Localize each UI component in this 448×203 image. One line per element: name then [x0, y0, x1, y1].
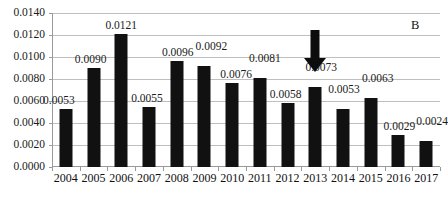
x-axis-tick-label: 2016 [385, 172, 413, 184]
bar-value-label: 0.0121 [105, 20, 137, 32]
x-axis-tick [135, 167, 136, 171]
bar-slot [80, 13, 108, 167]
bar[interactable] [420, 141, 433, 167]
x-axis-tick [329, 167, 330, 171]
plot-area: 0.00530.00900.01210.00550.00960.00920.00… [52, 13, 440, 167]
bar[interactable] [198, 66, 211, 167]
bar[interactable] [253, 78, 266, 167]
x-axis-tick [218, 167, 219, 171]
x-axis-tick-label: 2013 [301, 172, 329, 184]
x-axis-tick-label: 2009 [191, 172, 219, 184]
x-axis-tick-label: 2011 [246, 172, 274, 184]
bar-slot [163, 13, 191, 167]
bar[interactable] [226, 83, 239, 167]
x-axis-tick [191, 167, 192, 171]
x-axis-tick [52, 167, 53, 171]
x-axis-tick [107, 167, 108, 171]
x-axis-tick-label: 2014 [329, 172, 357, 184]
x-axis-tick-label: 2004 [52, 172, 80, 184]
bar-value-label: 0.0090 [75, 54, 107, 66]
y-axis-tick-label: 0.0100 [0, 51, 45, 63]
bar[interactable] [281, 103, 294, 167]
bar[interactable] [115, 34, 128, 167]
bar[interactable] [309, 87, 322, 167]
bar[interactable] [336, 109, 349, 167]
bar-value-label: 0.0053 [328, 84, 360, 96]
y-axis-tick-label: 0.0020 [0, 139, 45, 151]
bar[interactable] [142, 107, 155, 168]
bar-value-label: 0.0058 [270, 89, 302, 101]
bar-value-label: 0.0024 [416, 116, 448, 128]
bar[interactable] [59, 109, 72, 167]
x-axis-tick [80, 167, 81, 171]
y-axis-tick-label: 0.0040 [0, 117, 45, 129]
bar[interactable] [87, 68, 100, 167]
x-axis-tick [274, 167, 275, 171]
x-axis-tick-label: 2008 [163, 172, 191, 184]
arrow-shaft [311, 30, 320, 58]
bar[interactable] [364, 98, 377, 167]
bar-slot [218, 13, 246, 167]
x-axis-tick [412, 167, 413, 171]
bar-slot [412, 13, 440, 167]
x-axis-tick [301, 167, 302, 171]
bar-value-label: 0.0029 [384, 121, 416, 133]
bar-slot [107, 13, 135, 167]
y-axis-tick-label: 0.0000 [0, 161, 45, 173]
x-axis-tick-label: 2015 [357, 172, 385, 184]
y-axis-tick-label: 0.0140 [0, 7, 45, 19]
y-axis-tick-label: 0.0080 [0, 73, 45, 85]
x-axis-tick-label: 2005 [80, 172, 108, 184]
arrow-head [304, 58, 326, 72]
bar-value-label: 0.0096 [162, 47, 194, 59]
x-axis-tick [357, 167, 358, 171]
down-arrow-icon [304, 30, 326, 72]
bar[interactable] [392, 135, 405, 167]
bar-value-label: 0.0055 [131, 93, 163, 105]
x-axis-tick-label: 2017 [412, 172, 440, 184]
panel-label: B [411, 19, 419, 32]
x-axis-tick-label: 2007 [135, 172, 163, 184]
x-axis-tick-label: 2010 [218, 172, 246, 184]
bar-value-label: 0.0053 [43, 95, 75, 107]
x-axis-tick-label: 2012 [274, 172, 302, 184]
bar-slot [191, 13, 219, 167]
bar-slot [385, 13, 413, 167]
bar-slot [52, 13, 80, 167]
x-axis-tick-label: 2006 [107, 172, 135, 184]
x-axis-tick [246, 167, 247, 171]
bar-slot [357, 13, 385, 167]
y-axis-tick-label: 0.0060 [0, 95, 45, 107]
bar[interactable] [170, 61, 183, 167]
y-axis-tick-label: 0.0120 [0, 29, 45, 41]
x-axis-tick [385, 167, 386, 171]
x-axis-tick [440, 167, 441, 171]
bar-slot [135, 13, 163, 167]
x-axis-tick [163, 167, 164, 171]
